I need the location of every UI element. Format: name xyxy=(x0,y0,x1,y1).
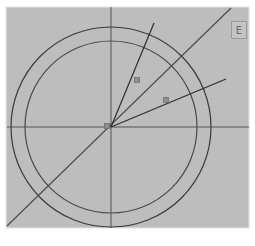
marker-center[interactable] xyxy=(105,124,110,129)
diagram-panel xyxy=(6,7,249,228)
marker-1[interactable] xyxy=(135,78,140,83)
marker-2[interactable] xyxy=(164,98,169,103)
panel-toggle-icon: E xyxy=(236,25,242,36)
diagram-canvas xyxy=(0,0,255,246)
panel-toggle-button[interactable]: E xyxy=(231,21,247,39)
